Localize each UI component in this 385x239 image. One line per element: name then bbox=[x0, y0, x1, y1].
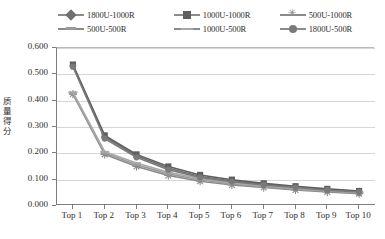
legend-item-1000u-1000r[interactable]: 1000U-1000R bbox=[174, 8, 280, 22]
legend-item-500u-500r[interactable]: 500U-500R bbox=[58, 22, 174, 36]
y-axis-tick-label: 0.500 bbox=[14, 68, 48, 77]
x-axis-tick-label: Top 1 bbox=[54, 210, 90, 220]
x-axis-tick-label: Top 9 bbox=[308, 210, 344, 220]
data-point-marker bbox=[165, 167, 171, 173]
x-axis-tick-label: Top 7 bbox=[245, 210, 281, 220]
data-point-marker bbox=[102, 135, 108, 141]
x-axis-tick-label: Top 2 bbox=[86, 210, 122, 220]
x-axis-tick-mark bbox=[104, 205, 105, 209]
series-layer bbox=[57, 48, 375, 206]
x-axis-tick-mark bbox=[199, 205, 200, 209]
x-axis-tick-mark bbox=[263, 205, 264, 209]
series-1000u-1000r bbox=[70, 61, 362, 194]
data-point-marker bbox=[132, 162, 141, 164]
y-axis-tick-label: 0.400 bbox=[14, 95, 48, 104]
legend-label: 1000U-1000R bbox=[200, 11, 251, 20]
series-1800u-500r bbox=[70, 64, 362, 196]
x-axis-tick-label: Top 10 bbox=[340, 210, 376, 220]
x-axis-tick-label: Top 6 bbox=[213, 210, 249, 220]
legend-item-1800u-500r[interactable]: 1800U-500R bbox=[280, 22, 368, 36]
y-axis-tick-mark bbox=[52, 205, 56, 206]
y-axis-title: 质 量 得 分 bbox=[1, 96, 13, 136]
data-point-marker bbox=[133, 154, 139, 160]
series-line bbox=[73, 65, 359, 191]
legend-row: 1800U-1000R 1000U-1000R 500U-1000R bbox=[58, 8, 368, 22]
y-axis-tick-label: 0.200 bbox=[14, 147, 48, 156]
line-marker-icon bbox=[174, 23, 200, 35]
series-line bbox=[73, 66, 359, 192]
legend-label: 1800U-500R bbox=[306, 25, 352, 34]
x-axis-tick-mark bbox=[358, 205, 359, 209]
data-point-marker bbox=[324, 187, 330, 193]
data-point-marker bbox=[70, 64, 76, 70]
y-axis-tick-label: 0.600 bbox=[14, 42, 48, 51]
y-axis-tick-label: 0.300 bbox=[14, 121, 48, 130]
y-axis-title-char: 量 bbox=[1, 106, 13, 116]
x-axis-tick-label: Top 4 bbox=[149, 210, 185, 220]
y-axis-tick-label: 0.000 bbox=[14, 200, 48, 209]
legend-row: 500U-500R 1000U-500R 1800U-500R bbox=[58, 22, 368, 36]
legend-label: 500U-1000R bbox=[306, 11, 352, 20]
x-axis-tick-mark bbox=[167, 205, 168, 209]
legend-label: 1000U-500R bbox=[200, 25, 246, 34]
x-axis-tick-mark bbox=[136, 205, 137, 209]
x-axis-tick-label: Top 3 bbox=[118, 210, 154, 220]
legend-item-1000u-500r[interactable]: 1000U-500R bbox=[174, 22, 280, 36]
data-point-marker bbox=[356, 189, 362, 195]
data-point-marker bbox=[229, 179, 235, 185]
diamond-marker-icon bbox=[58, 9, 84, 21]
legend-label: 500U-500R bbox=[84, 25, 126, 34]
x-axis-tick-mark bbox=[295, 205, 296, 209]
y-axis-title-char: 质 bbox=[1, 96, 13, 106]
y-axis-tick-label: 0.100 bbox=[14, 174, 48, 183]
data-point-marker bbox=[261, 182, 267, 188]
chart-container: 1800U-1000R 1000U-1000R 500U-1000R 50 bbox=[0, 0, 385, 239]
legend-item-500u-1000r[interactable]: 500U-1000R bbox=[280, 8, 368, 22]
legend-item-1800u-1000r[interactable]: 1800U-1000R bbox=[58, 8, 174, 22]
data-point-marker bbox=[197, 174, 203, 180]
y-axis-title-char: 分 bbox=[1, 126, 13, 136]
dash-marker-icon bbox=[58, 23, 84, 35]
x-axis-tick-mark bbox=[326, 205, 327, 209]
x-axis-tick-mark bbox=[72, 205, 73, 209]
legend-label: 1800U-1000R bbox=[84, 11, 135, 20]
series-line bbox=[73, 67, 359, 192]
chart-legend: 1800U-1000R 1000U-1000R 500U-1000R 50 bbox=[58, 8, 368, 36]
data-point-marker bbox=[100, 151, 109, 153]
series-1800u-1000r bbox=[69, 62, 363, 195]
y-axis-title-char: 得 bbox=[1, 116, 13, 126]
x-axis-tick-mark bbox=[231, 205, 232, 209]
data-point-marker bbox=[292, 184, 298, 190]
data-point-marker bbox=[68, 91, 77, 93]
x-axis-tick-label: Top 5 bbox=[181, 210, 217, 220]
square-marker-icon bbox=[174, 9, 200, 21]
circle-marker-icon bbox=[280, 23, 306, 35]
star-marker-icon bbox=[280, 9, 306, 21]
plot-area bbox=[56, 47, 374, 205]
x-axis-tick-label: Top 8 bbox=[277, 210, 313, 220]
